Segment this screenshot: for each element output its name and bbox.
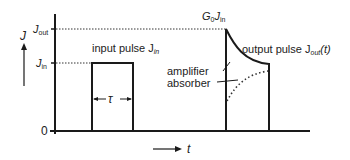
zero-tick-label: 0 (41, 125, 48, 137)
arrow-right-icon (127, 97, 132, 101)
input-pulse-label: input pulse Jin (92, 42, 159, 58)
tau-label: τ (108, 93, 113, 105)
absorber-label: absorber (167, 77, 210, 89)
arrow-right-icon (175, 146, 182, 152)
peak-gain-label: G0Jin (202, 10, 225, 26)
x-axis-label: t (187, 143, 190, 155)
output-pulse-label: output pulse Jout(t) (242, 43, 331, 59)
jout-tick-label: Jout (33, 23, 48, 39)
arrow-up-icon (21, 43, 27, 50)
y-axis-label: J (20, 30, 26, 42)
amplifier-label: amplifier (167, 65, 209, 77)
jin-tick-label: Jin (36, 57, 47, 73)
arrow-left-icon (93, 97, 98, 101)
absorber-leader (217, 80, 238, 82)
absorber-curve (227, 71, 268, 101)
